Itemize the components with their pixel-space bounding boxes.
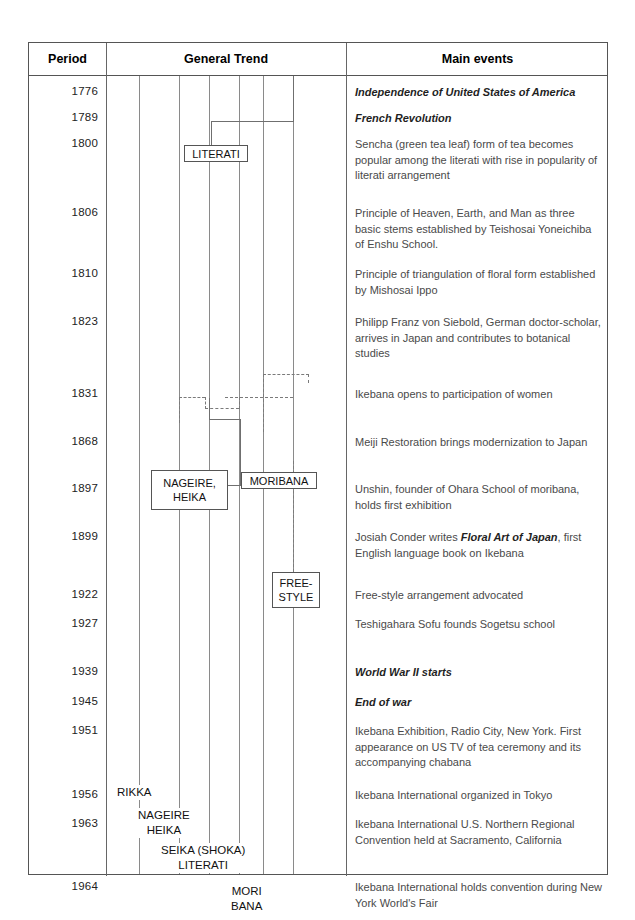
table-header-row: Period General Trend Main events (29, 43, 607, 76)
event-text: Ikebana International U.S. Northern Regi… (355, 817, 603, 848)
trend-label-nageire-line1: NAGEIRE (138, 808, 190, 823)
dashed-connector-moribana-drop (263, 374, 264, 432)
trend-box-freestyle-line2: STYLE (279, 590, 314, 604)
year-label: 1945 (29, 695, 98, 707)
connector-nageire-top (209, 419, 241, 420)
trend-box-moribana-line1: MORIBANA (250, 474, 309, 488)
year-label: 1927 (29, 617, 98, 629)
year-label: 1789 (29, 111, 98, 123)
table-body: 1776 1789 1800 1806 1810 1823 1831 1868 … (29, 76, 609, 874)
year-label: 1963 (29, 817, 98, 829)
trend-label-seika-line1: SEIKA (SHOKA) (161, 843, 245, 858)
column-header-main-events: Main events (346, 43, 609, 76)
event-text: Meiji Restoration brings modernization t… (355, 435, 603, 451)
event-text: World War II starts (355, 665, 603, 681)
event-text: Principle of triangulation of floral for… (355, 267, 603, 298)
event-text: End of war (355, 695, 603, 711)
book-title: Floral Art of Japan (461, 531, 558, 543)
event-text: Unshin, founder of Ohara School of morib… (355, 482, 603, 513)
event-text: Philipp Franz von Siebold, German doctor… (355, 315, 603, 362)
dashed-connector-moribana-up (308, 374, 309, 383)
dashed-connector-left-horizontal (179, 397, 205, 398)
year-label: 1868 (29, 435, 98, 447)
trend-box-freestyle-line1: FREE- (280, 576, 313, 590)
event-text: Ikebana International organized in Tokyo (355, 788, 603, 804)
connector-nageire-stem (209, 398, 210, 420)
trend-label-nageire-line2: HEIKA (138, 823, 190, 838)
year-label: 1800 (29, 137, 98, 149)
trend-box-moribana[interactable]: MORIBANA (241, 472, 317, 489)
year-label: 1831 (29, 387, 98, 399)
trend-label-seika-literati: SEIKA (SHOKA) LITERATI (159, 843, 247, 873)
year-label: 1939 (29, 665, 98, 677)
year-label: 1964 (29, 880, 98, 892)
trend-label-nageire-heika: NAGEIRE HEIKA (136, 808, 192, 838)
event-text: Ikebana Exhibition, Radio City, New York… (355, 724, 603, 771)
trend-box-literati-line1: LITERATI (192, 147, 239, 161)
trend-box-nageire-line1: NAGEIRE, (163, 476, 216, 490)
ikebana-history-table: Period General Trend Main events 1776 17… (28, 42, 608, 875)
trend-label-mori-line1: MORI (231, 884, 262, 899)
event-text: Ikebana opens to participation of women (355, 387, 603, 403)
connector-literati-horizontal (211, 121, 294, 122)
dashed-connector-mid-horizontal (205, 408, 239, 409)
trend-box-literati[interactable]: LITERATI (184, 145, 248, 162)
column-header-general-trend: General Trend (106, 43, 346, 76)
trend-label-mori-line2: BANA (231, 899, 262, 914)
event-text: Independence of United States of America (355, 85, 603, 101)
year-label: 1776 (29, 85, 98, 97)
year-label: 1897 (29, 482, 98, 494)
trend-box-nageire-line2: HEIKA (173, 490, 206, 504)
year-label: 1806 (29, 206, 98, 218)
connector-literati-vertical (293, 76, 294, 122)
dashed-connector-right-horizontal (225, 397, 293, 398)
timeline-page: Period General Trend Main events 1776 17… (0, 0, 635, 920)
event-text: Sencha (green tea leaf) form of tea beco… (355, 137, 603, 184)
trend-label-rikka-text: RIKKA (117, 786, 152, 798)
dashed-connector-left-vertical (179, 397, 180, 423)
year-label: 1823 (29, 315, 98, 327)
year-label: 1810 (29, 267, 98, 279)
trend-label-seika-line2: LITERATI (161, 858, 245, 873)
connector-literati-drop (211, 121, 212, 148)
trend-label-rikka: RIKKA (115, 785, 154, 800)
event-text: French Revolution (355, 111, 603, 127)
year-label: 1956 (29, 788, 98, 800)
event-text: Josiah Conder writes Floral Art of Japan… (355, 530, 603, 561)
column-header-period: Period (29, 43, 106, 76)
trend-label-mori-bana: MORI BANA (229, 884, 264, 914)
event-text: Ikebana International holds convention d… (355, 880, 603, 911)
lineage-line-rikka (139, 76, 140, 874)
dashed-connector-literati-vertical (239, 397, 240, 409)
event-text: Free-style arrangement advocated (355, 588, 603, 604)
trend-box-nageire-heika[interactable]: NAGEIRE, HEIKA (151, 470, 228, 510)
dashed-connector-moribana-horizontal (263, 374, 309, 375)
trend-box-free-style[interactable]: FREE- STYLE (272, 572, 320, 608)
event-text: Teshigahara Sofu founds Sogetsu school (355, 617, 603, 633)
year-label: 1922 (29, 588, 98, 600)
year-label: 1951 (29, 724, 98, 736)
event-text: Principle of Heaven, Earth, and Man as t… (355, 206, 603, 253)
year-label: 1899 (29, 530, 98, 542)
